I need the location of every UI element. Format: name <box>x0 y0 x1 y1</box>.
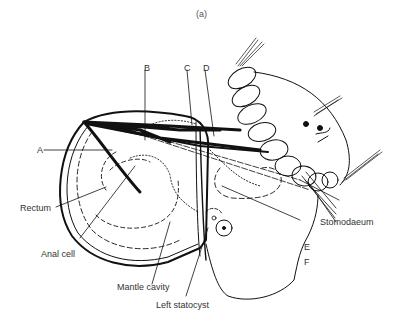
label-e: E <box>304 243 310 252</box>
head-outline <box>206 195 318 299</box>
muscle-bands <box>84 122 260 150</box>
label-stomodaeum: Stomodaeum <box>320 218 374 227</box>
leader-lines <box>44 70 339 296</box>
cilia-tufts <box>236 38 382 182</box>
diagram: (a) B C D A Rectum Anal cell Mantle cavi… <box>0 0 400 327</box>
label-mantle-cavity: Mantle cavity <box>117 283 170 292</box>
label-c: C <box>184 64 191 73</box>
label-anal-cell: Anal cell <box>41 250 75 259</box>
label-b: B <box>144 64 150 73</box>
label-left-statocyst: Left statocyst <box>156 301 209 310</box>
label-f: F <box>304 258 310 267</box>
larva-drawing <box>0 0 400 327</box>
label-d: D <box>203 64 210 73</box>
label-rectum: Rectum <box>20 204 51 213</box>
label-a: A <box>37 146 43 155</box>
panel-label: (a) <box>196 10 207 19</box>
